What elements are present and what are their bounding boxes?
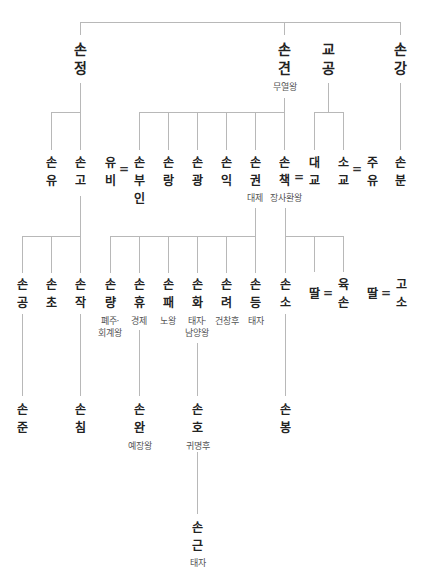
name-char: 부 xyxy=(128,172,150,190)
name-char: 손 xyxy=(389,154,411,172)
connector-line xyxy=(285,314,286,396)
name-char: 손 xyxy=(244,154,266,172)
person-sonjeong: 손 정 xyxy=(69,40,91,78)
name-char: 손 xyxy=(273,154,295,172)
connector-line xyxy=(314,236,315,272)
connector-line xyxy=(80,22,81,35)
name-char: 광 xyxy=(186,172,208,190)
name-char: 손 xyxy=(186,401,208,419)
connector-line xyxy=(139,112,140,150)
connector-line xyxy=(139,112,285,113)
name-char: 손 xyxy=(273,40,295,59)
name-char: 소 xyxy=(274,294,296,312)
person-sonho: 손 호 xyxy=(186,401,208,437)
name-char: 손 xyxy=(69,276,91,294)
person-sonwan: 손 완 xyxy=(128,401,150,437)
connector-line xyxy=(255,236,256,273)
name-char: 육 xyxy=(332,276,354,294)
person-juyu: 주 유 xyxy=(361,154,383,190)
connector-line xyxy=(22,314,23,396)
name-char: 호 xyxy=(186,419,208,437)
person-ttal-1: 딸 xyxy=(303,285,325,303)
name-char: 딸 xyxy=(303,285,325,303)
title-label: 태자 xyxy=(190,557,206,569)
name-char: 교 xyxy=(303,172,325,190)
name-char: 랑 xyxy=(157,172,179,190)
name-char: 강 xyxy=(389,59,411,78)
name-char: 고 xyxy=(390,276,412,294)
connector-line xyxy=(284,22,285,35)
connector-line xyxy=(110,236,256,237)
name-char: 책 xyxy=(273,172,295,190)
connector-line xyxy=(80,83,81,112)
connector-line xyxy=(197,452,198,514)
connector-line xyxy=(255,112,256,150)
name-char: 초 xyxy=(40,294,62,312)
title-label: 태자· 남양왕 xyxy=(185,315,209,339)
connector-line xyxy=(400,22,401,35)
connector-line xyxy=(51,236,52,273)
connector-line xyxy=(314,112,315,150)
title-label: 귀명후 xyxy=(186,440,210,452)
person-sonhyu: 손 휴 xyxy=(128,276,150,312)
name-char: 주 xyxy=(361,154,383,172)
person-yukson: 육 손 xyxy=(332,276,354,312)
name-char: 분 xyxy=(389,172,411,190)
title-label: 건창후 xyxy=(215,315,239,327)
person-sonhwa: 손 화 xyxy=(186,276,208,312)
person-sonchim: 손 침 xyxy=(69,401,91,437)
name-char: 손 xyxy=(157,154,179,172)
name-char: 등 xyxy=(244,294,266,312)
connector-line xyxy=(80,236,81,273)
name-char: 손 xyxy=(40,276,62,294)
connector-line xyxy=(285,208,286,236)
connector-line xyxy=(285,236,286,273)
title-line: 남양왕 xyxy=(185,327,209,339)
connector-line xyxy=(139,330,140,396)
person-sonbong: 손 봉 xyxy=(274,401,296,437)
name-char: 공 xyxy=(317,59,339,78)
person-yubi: 유 비 xyxy=(99,154,121,190)
name-char: 정 xyxy=(69,59,91,78)
person-sonryang: 손 량 xyxy=(99,276,121,312)
name-char: 손 xyxy=(274,276,296,294)
name-char: 침 xyxy=(69,419,91,437)
name-char: 손 xyxy=(215,154,237,172)
person-songyeon: 손 견 xyxy=(273,40,295,78)
title-line: 폐주· xyxy=(98,315,122,327)
name-char: 견 xyxy=(273,59,295,78)
name-char: 익 xyxy=(215,172,237,190)
person-sonso: 손 소 xyxy=(274,276,296,312)
person-sonchaek: 손 책 xyxy=(273,154,295,190)
connector-line xyxy=(284,98,285,112)
name-char: 근 xyxy=(186,537,208,555)
title-label: 노왕 xyxy=(160,315,176,327)
name-char: 소 xyxy=(390,294,412,312)
connector-line xyxy=(255,208,256,236)
name-char: 손 xyxy=(274,401,296,419)
name-char: 비 xyxy=(99,172,121,190)
connector-line xyxy=(51,112,81,113)
name-char: 화 xyxy=(186,294,208,312)
person-songeun: 손 근 xyxy=(186,519,208,555)
connector-line xyxy=(343,112,344,150)
name-char: 손 xyxy=(128,401,150,419)
connector-line xyxy=(139,236,140,273)
name-char: 손 xyxy=(128,154,150,172)
name-char: 손 xyxy=(11,401,33,419)
person-sonyu: 손 유 xyxy=(40,154,62,190)
name-char: 손 xyxy=(11,276,33,294)
name-char: 휴 xyxy=(128,294,150,312)
name-char: 손 xyxy=(157,276,179,294)
name-char: 손 xyxy=(186,154,208,172)
person-sonbuin: 손 부 인 xyxy=(128,154,150,208)
person-sonrang: 손 랑 xyxy=(157,154,179,190)
connector-line xyxy=(328,83,329,112)
title-label: 태자 xyxy=(248,315,264,327)
name-char: 대 xyxy=(303,154,325,172)
connector-line xyxy=(226,112,227,150)
name-char: 유 xyxy=(99,154,121,172)
name-char: 손 xyxy=(69,40,91,59)
connector-line xyxy=(80,22,401,23)
name-char: 준 xyxy=(11,419,33,437)
